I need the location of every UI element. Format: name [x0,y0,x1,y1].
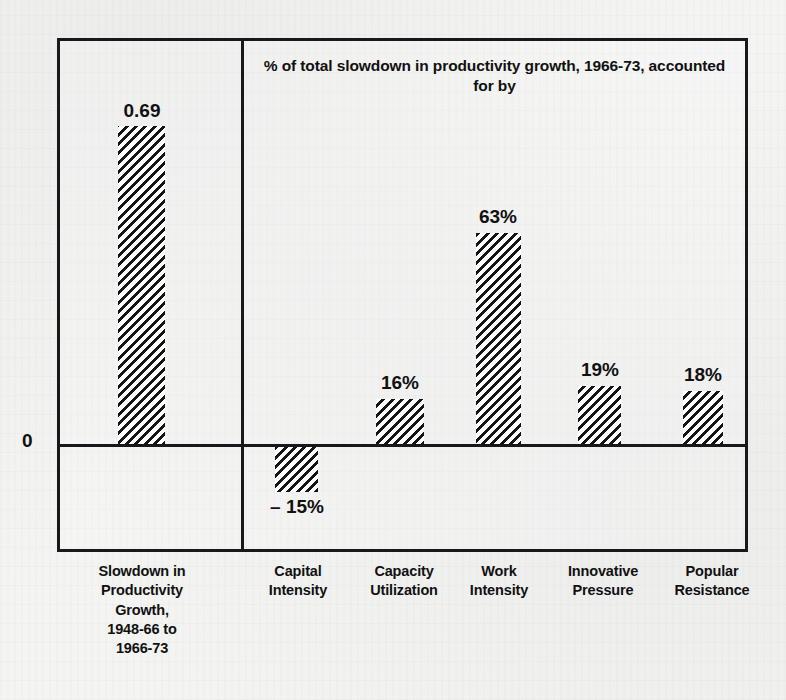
bar-value-innovative-pressure: 19% [559,359,641,381]
bar-capital-intensity [275,447,318,492]
right-panel-heading: % of total slowdown in productivity grow… [252,56,737,96]
zero-axis-label: 0 [22,430,33,452]
bar-innovative-pressure [578,386,621,445]
category-label-work-intensity: Work Intensity [447,562,551,601]
category-label-capacity-utilization: Capacity Utilization [349,562,459,601]
bar-value-work-intensity: 63% [457,206,539,228]
bar-work-intensity [476,233,521,445]
bar-value-capital-intensity: – 15% [256,496,338,518]
bar-value-popular-resistance: 18% [662,364,744,386]
bar-capacity-utilization [376,399,424,445]
bar-value-slowdown-in-productivity-growth: 0.69 [101,100,183,122]
bar-popular-resistance [683,391,723,445]
panel-divider [241,38,244,552]
category-label-capital-intensity: Capital Intensity [246,562,350,601]
bar-slowdown-in-productivity-growth [118,126,165,445]
category-label-innovative-pressure: Innovative Pressure [546,562,660,601]
category-label-slowdown-in-productivity-growth: Slowdown in Productivity Growth, 1948-66… [66,562,218,658]
category-label-popular-resistance: Popular Resistance [652,562,772,601]
bar-value-capacity-utilization: 16% [359,372,441,394]
zero-axis-line [57,444,748,447]
